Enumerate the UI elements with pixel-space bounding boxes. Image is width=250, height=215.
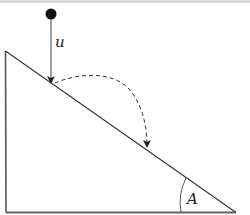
bounce-trajectory <box>55 75 147 146</box>
wedge-hypotenuse <box>6 51 237 213</box>
ball <box>46 9 57 20</box>
inclined-plane-diagram: u A <box>0 0 250 215</box>
angle-arc <box>180 178 186 212</box>
velocity-label: u <box>55 33 65 51</box>
angle-label: A <box>185 190 198 208</box>
incline-wedge <box>6 51 237 213</box>
wedge-vertical-side <box>6 51 7 213</box>
